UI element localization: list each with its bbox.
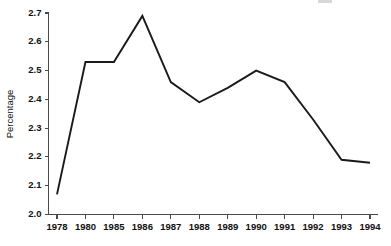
- x-tick-label: 1978: [46, 221, 67, 232]
- x-tick-label: 1991: [274, 221, 296, 232]
- x-tick-label: 1992: [303, 221, 324, 232]
- y-tick-label: 2.2: [28, 150, 41, 161]
- y-axis-group: 2.02.12.22.32.42.52.62.7 Percentage: [4, 7, 49, 220]
- chart-canvas: 2.02.12.22.32.42.52.62.7 Percentage 1978…: [0, 0, 391, 246]
- x-tick-label: 1989: [217, 221, 238, 232]
- x-tick-group: 1978198019851986198719881989199019911992…: [46, 215, 381, 232]
- y-axis-title: Percentage: [4, 90, 15, 139]
- x-tick-label: 1990: [246, 221, 267, 232]
- y-tick-label: 2.4: [28, 93, 42, 104]
- x-axis-group: 1978198019851986198719881989199019911992…: [46, 215, 381, 232]
- x-tick-label: 1986: [132, 221, 153, 232]
- y-tick-group: 2.02.12.22.32.42.52.62.7: [28, 7, 48, 220]
- line-chart: 2.02.12.22.32.42.52.62.7 Percentage 1978…: [0, 0, 391, 246]
- x-tick-label: 1985: [103, 221, 125, 232]
- y-tick-label: 2.0: [28, 208, 41, 219]
- y-tick-label: 2.6: [28, 35, 41, 46]
- y-tick-label: 2.7: [28, 7, 41, 18]
- data-series-line: [57, 16, 370, 194]
- y-tick-label: 2.5: [28, 64, 42, 75]
- x-tick-label: 1994: [359, 221, 381, 232]
- x-tick-label: 1993: [331, 221, 352, 232]
- x-tick-label: 1988: [189, 221, 210, 232]
- plot-area: [57, 16, 370, 194]
- y-tick-label: 2.3: [28, 122, 41, 133]
- x-tick-label: 1980: [75, 221, 96, 232]
- y-tick-label: 2.1: [28, 179, 42, 190]
- x-tick-label: 1987: [160, 221, 181, 232]
